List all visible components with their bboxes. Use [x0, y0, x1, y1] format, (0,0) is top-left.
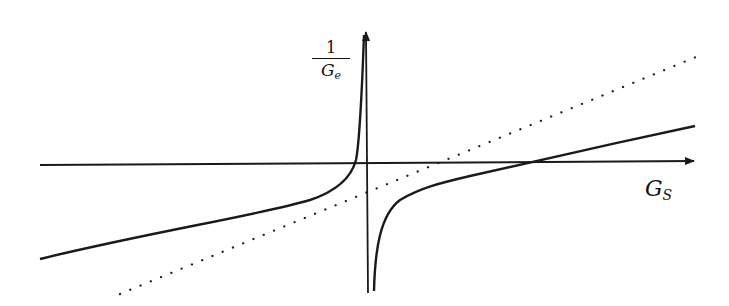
y-label-subscript: e: [335, 69, 342, 82]
x-label-base: G: [645, 176, 663, 201]
oblique-asymptote-dotted: [120, 57, 696, 294]
function-plot: [0, 0, 729, 306]
y-label-numerator: 1: [312, 40, 350, 56]
y-axis-label: 1 Ge: [312, 40, 350, 85]
y-axis: [366, 32, 368, 293]
fraction-bar: [312, 58, 350, 59]
x-label-subscript: S: [663, 187, 673, 203]
right-branch-curve: [374, 126, 695, 291]
x-axis-label: GS: [645, 176, 672, 203]
y-label-denominator: Ge: [312, 61, 350, 85]
y-label-base: G: [321, 60, 335, 80]
